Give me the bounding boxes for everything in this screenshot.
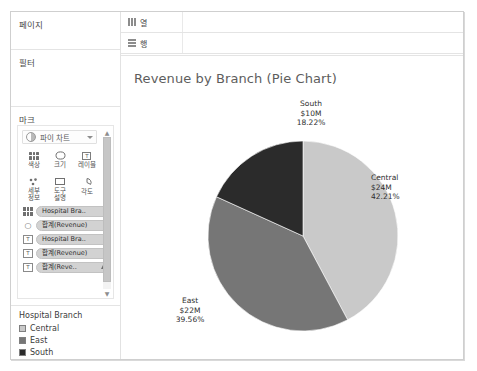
marks-button-label[interactable]: T 레이블 xyxy=(74,148,100,175)
text-label-icon: T xyxy=(23,235,33,244)
size-icon: ○ xyxy=(23,221,33,230)
legend-title: Hospital Branch xyxy=(11,306,120,323)
pie-label-line: 18.22% xyxy=(276,118,346,128)
marks-button-detail[interactable]: 세부 정보 xyxy=(21,175,47,202)
chevron-down-icon[interactable] xyxy=(87,136,93,139)
pie-chart[interactable]: South$10M18.22% Central$24M42.21% East$2… xyxy=(121,56,463,359)
marks-pill-row[interactable]: ○ 합계(Revenue) xyxy=(21,218,111,232)
marks-button-size-label: 크기 xyxy=(54,162,66,169)
filters-shelf-label: 필터 xyxy=(11,50,120,68)
rows-shelf-label: 행 xyxy=(140,38,147,49)
pie-label-south: South$10M18.22% xyxy=(276,99,346,128)
marks-button-tooltip-label: 도구 설명 xyxy=(54,188,66,202)
pie-label-line: 39.56% xyxy=(159,315,221,325)
marks-button-angle[interactable]: 각도 xyxy=(74,175,100,202)
tableau-worksheet-window: 페이지 필터 마크 파이 차트 색상 xyxy=(10,11,464,360)
text-label-icon: T xyxy=(82,150,91,161)
rows-icon xyxy=(128,39,136,47)
size-icon xyxy=(55,150,66,161)
text-label-icon: T xyxy=(23,249,33,258)
marks-button-color-label: 색상 xyxy=(28,162,40,169)
marks-pill-row[interactable]: T 합계(Reve.. xyxy=(21,260,111,274)
marks-pill-size[interactable]: 합계(Revenue) xyxy=(36,220,111,231)
marks-button-angle-label: 각도 xyxy=(81,189,93,196)
pages-shelf[interactable]: 페이지 xyxy=(11,12,120,50)
angle-icon xyxy=(82,177,92,188)
visualization-view[interactable]: Revenue by Branch (Pie Chart) South$10M1… xyxy=(121,55,463,359)
marks-pill-list: Hospital Bra.. ○ 합계(Revenue) T Hospital … xyxy=(21,204,111,274)
color-dots-icon xyxy=(29,150,39,161)
pie-label-line: $10M xyxy=(276,109,346,119)
rows-shelf[interactable]: 행 xyxy=(121,33,463,54)
marks-button-label-label: 레이블 xyxy=(78,162,96,169)
filters-shelf[interactable]: 필터 xyxy=(11,50,120,107)
mark-type-value: 파이 차트 xyxy=(40,132,70,143)
marks-pill-label-percent[interactable]: 합계(Reve.. xyxy=(36,262,111,273)
columns-shelf-label: 열 xyxy=(140,17,147,28)
right-panel: 열 행 Revenue by Branch (Pie Chart) South$… xyxy=(121,12,463,359)
pages-shelf-label: 페이지 xyxy=(11,12,120,30)
marks-pill-label-revenue[interactable]: 합계(Revenue) xyxy=(36,248,111,259)
pie-label-line: $22M xyxy=(159,306,221,316)
legend-swatch xyxy=(19,349,26,356)
marks-pill-row[interactable]: T Hospital Bra.. xyxy=(21,232,111,246)
columns-shelf[interactable]: 열 xyxy=(121,12,463,33)
pie-label-line: Central xyxy=(371,173,400,183)
marks-button-tooltip[interactable]: 도구 설명 xyxy=(47,175,73,202)
columns-icon xyxy=(128,18,136,26)
detail-icon xyxy=(29,177,39,187)
pie-label-line: 42.21% xyxy=(371,192,400,202)
legend-item-label: South xyxy=(30,348,53,357)
pie-label-line: South xyxy=(276,99,346,109)
mark-property-buttons: 색상 크기 T 레이블 xyxy=(21,148,100,202)
pie-chart-icon xyxy=(26,132,36,142)
text-label-icon: T xyxy=(23,263,33,272)
legend-item-east[interactable]: East xyxy=(11,335,120,347)
legend-item-label: Central xyxy=(30,324,59,333)
marks-pill-row[interactable]: Hospital Bra.. xyxy=(21,204,111,218)
marks-pill-label-percent-text: 합계(Reve.. xyxy=(42,262,77,272)
color-dots-icon xyxy=(23,207,33,216)
pie-label-line: East xyxy=(159,296,221,306)
legend-item-south[interactable]: South xyxy=(11,347,120,359)
rows-shelf-name: 행 xyxy=(121,33,183,53)
scrollbar-thumb[interactable] xyxy=(103,137,111,282)
tooltip-icon xyxy=(55,177,65,187)
pie-label-east: East$22M39.56% xyxy=(159,296,221,325)
legend-item-central[interactable]: Central xyxy=(11,323,120,335)
color-legend: Hospital Branch Central East South xyxy=(11,306,120,359)
legend-swatch xyxy=(19,325,26,332)
marks-button-detail-label: 세부 정보 xyxy=(28,188,40,202)
marks-card-scrollbar[interactable]: ▲ ▼ xyxy=(103,129,111,297)
marks-card: 파이 차트 색상 크기 xyxy=(17,125,114,299)
marks-pill-label-branch[interactable]: Hospital Bra.. xyxy=(36,234,111,245)
legend-swatch xyxy=(19,337,26,344)
marks-button-color[interactable]: 색상 xyxy=(21,148,47,175)
columns-shelf-dropzone[interactable] xyxy=(183,12,463,32)
pie-label-line: $24M xyxy=(371,183,400,193)
marks-pill-row[interactable]: T 합계(Revenue) xyxy=(21,246,111,260)
mark-type-dropdown[interactable]: 파이 차트 xyxy=(22,130,97,144)
columns-shelf-name: 열 xyxy=(121,12,183,32)
marks-shelf-label: 마크 xyxy=(11,107,120,125)
scroll-up-icon[interactable]: ▲ xyxy=(103,129,111,136)
left-panel: 페이지 필터 마크 파이 차트 색상 xyxy=(11,12,121,359)
legend-item-label: East xyxy=(30,336,47,345)
marks-pill-color[interactable]: Hospital Bra.. xyxy=(36,206,111,217)
scroll-down-icon[interactable]: ▼ xyxy=(103,290,111,297)
rows-shelf-dropzone[interactable] xyxy=(183,33,463,53)
pie-label-central: Central$24M42.21% xyxy=(371,173,400,202)
marks-button-size[interactable]: 크기 xyxy=(47,148,73,175)
marks-shelf: 마크 파이 차트 색상 xyxy=(11,107,120,306)
